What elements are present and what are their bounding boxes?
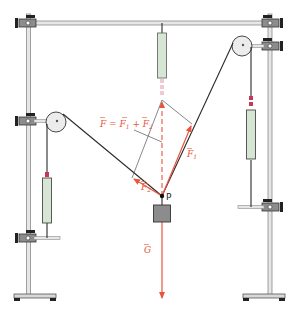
parallel-line-f1	[162, 100, 192, 124]
stand-left-base	[14, 294, 56, 301]
force-2-label: F2	[140, 182, 151, 193]
stand-left-post	[27, 14, 31, 296]
stand-right-base	[243, 294, 285, 301]
eq-plus: +	[130, 119, 143, 129]
eq-equals: =	[106, 119, 119, 129]
clamp-left-bottom	[15, 230, 36, 243]
stand-right-post	[268, 14, 272, 296]
pulley-right	[232, 36, 252, 56]
pulley-left	[46, 112, 66, 132]
label-leader	[134, 130, 162, 142]
spring-scale-right	[247, 96, 256, 159]
clamp-right-pulley	[262, 38, 283, 51]
clamp-left-pulley	[15, 113, 36, 126]
crossbar	[28, 21, 272, 25]
force-1-arrow	[162, 126, 191, 196]
point-p-label: P	[166, 192, 172, 202]
eq-f2-sub: 2	[148, 123, 153, 130]
mass-block	[154, 205, 171, 222]
rope-right-diagonal	[162, 43, 233, 196]
pulley-left-axle	[56, 120, 58, 122]
force-diagram-svg: F = F1 + F2 F1 F2 G P	[0, 0, 298, 310]
ropes	[47, 23, 251, 238]
resultant-equation-label: F = F1 + F2	[99, 119, 153, 130]
parallel-line-f2	[132, 100, 162, 178]
clamp-left-top	[15, 15, 36, 28]
weight-label: G	[144, 245, 151, 255]
spring-scale-top	[158, 33, 167, 95]
point-p	[160, 194, 164, 198]
clamp-right-bottom	[262, 199, 283, 212]
vector-bars	[100, 118, 192, 245]
force-1-label: F1	[186, 149, 197, 160]
spring-scale-left	[43, 172, 52, 223]
frame	[14, 14, 285, 301]
diagram-stage: F = F1 + F2 F1 F2 G P	[0, 0, 298, 310]
pulley-right-axle	[242, 44, 244, 46]
clamp-right-top	[262, 15, 283, 28]
